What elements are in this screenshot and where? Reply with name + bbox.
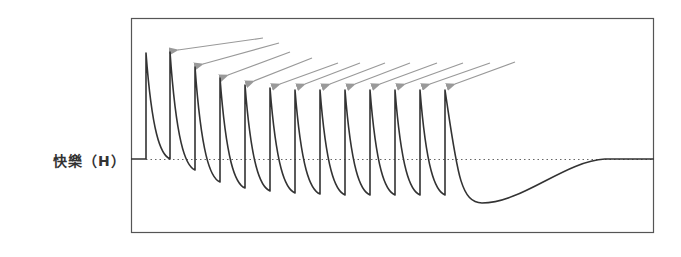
arrow-icon bbox=[254, 58, 312, 81]
arrow-icon bbox=[330, 63, 385, 84]
arrow-annotations bbox=[178, 38, 515, 84]
arrow-icon bbox=[280, 63, 338, 84]
arrow-icon bbox=[405, 63, 463, 84]
chart-area bbox=[0, 0, 681, 257]
arrow-icon bbox=[305, 63, 360, 84]
arrow-icon bbox=[380, 63, 437, 84]
arrow-icon bbox=[430, 63, 490, 84]
chart-frame bbox=[132, 19, 654, 233]
arrow-icon bbox=[355, 63, 410, 84]
arrow-icon bbox=[178, 38, 263, 50]
arrow-icon bbox=[228, 52, 290, 75]
pleasure-curve bbox=[131, 52, 654, 203]
